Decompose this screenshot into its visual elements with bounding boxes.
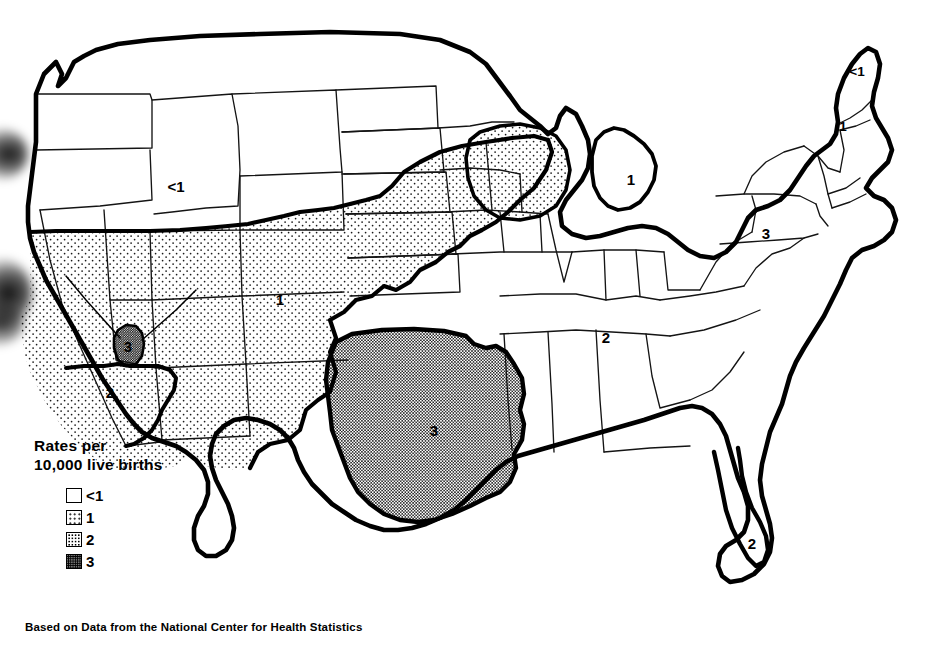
- map-label-southern-california: 2: [106, 385, 114, 400]
- michigan-accent: [592, 128, 656, 210]
- map-label-michigan: 1: [627, 172, 635, 187]
- legend-entry-3: 3: [66, 550, 237, 572]
- map-label-pennsylvania: 3: [762, 226, 770, 241]
- legend-label-1: 1: [86, 510, 95, 525]
- legend: Rates per 10,000 live births <1 1 2 3: [22, 436, 237, 572]
- legend-title: Rates per 10,000 live births: [34, 436, 237, 474]
- map-label-great-plains: 1: [276, 292, 284, 307]
- map-label-florida: 2: [748, 536, 756, 551]
- legend-label-lt1: <1: [86, 488, 104, 503]
- legend-swatch-2: [66, 532, 82, 547]
- figure-root: <113231223<11 Rates per 10,000 live birt…: [0, 0, 925, 647]
- legend-entry-lt1: <1: [66, 484, 237, 506]
- map-label-texas-oklahoma: 3: [430, 423, 438, 438]
- legend-label-2: 2: [86, 532, 95, 547]
- map-label-nevada-small: 3: [124, 339, 132, 354]
- legend-swatch-lt1: [66, 488, 82, 503]
- source-note: Based on Data from the National Center f…: [25, 620, 362, 634]
- legend-entry-1: 1: [66, 506, 237, 528]
- legend-label-3: 3: [86, 554, 95, 569]
- map-label-kentucky: 2: [602, 330, 610, 345]
- legend-swatch-1: [66, 510, 82, 525]
- map-label-new-hampshire: 1: [839, 119, 847, 134]
- map-label-pacific-northwest: <1: [167, 179, 184, 194]
- legend-swatch-3: [66, 554, 82, 569]
- legend-entry-2: 2: [66, 528, 237, 550]
- map-label-maine: <1: [849, 64, 864, 79]
